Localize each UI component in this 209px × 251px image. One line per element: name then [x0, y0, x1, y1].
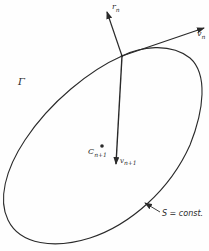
v-next-arrow [116, 56, 122, 164]
v-n-label: vn [197, 30, 205, 40]
r-n-arrow [107, 12, 122, 56]
v-n-arrow [122, 28, 204, 56]
junction-point [121, 55, 124, 58]
c-next-label: Cn+1 [88, 148, 107, 158]
r-n-label: rn [112, 3, 120, 13]
surface-label: S = const. [162, 210, 203, 218]
v-next-label: vn+1 [120, 158, 137, 166]
diagram-canvas: Γ rn vn Cn+1 vn+1 S = const. [0, 0, 209, 251]
surface-pointer [145, 203, 160, 212]
gamma-label: Γ [18, 77, 25, 87]
